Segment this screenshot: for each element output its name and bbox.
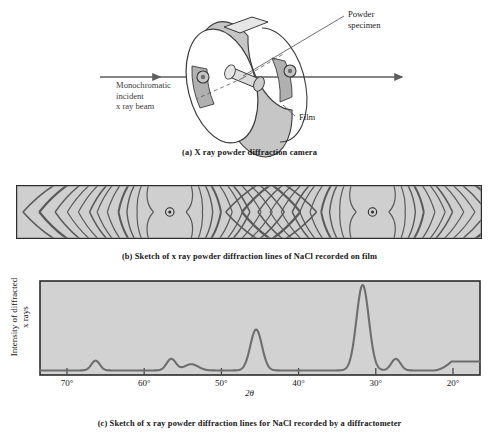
film-ring	[175, 17, 307, 157]
exit-port-hole	[288, 69, 292, 73]
x-axis-tick-label: 20°	[447, 378, 460, 388]
film-strip-svg	[16, 185, 482, 239]
panel-a-camera-diagram: Monochromatic incident x ray beam Powder…	[0, 0, 499, 168]
x-axis-tick-label: 50°	[215, 378, 228, 388]
y-axis-label-line1: Intensity of diffracted	[9, 278, 19, 356]
x-axis-tick-label: 30°	[369, 378, 382, 388]
film-beam-hole-center	[168, 211, 171, 214]
x-axis-tick-label: 70°	[61, 378, 74, 388]
y-axis-label: Intensity of diffracted x rays	[9, 261, 31, 373]
figure-root: Monochromatic incident x ray beam Powder…	[0, 0, 499, 439]
incident-beam-label-line1: Monochromatic	[116, 80, 171, 90]
powder-specimen-label-line2: specimen	[348, 20, 380, 30]
incident-beam-label-line2: incident	[116, 91, 144, 101]
panel-b-film-strip	[16, 185, 482, 239]
powder-specimen-label-line1: Powder	[348, 9, 374, 19]
incident-beam-label: Monochromatic incident x ray beam	[116, 80, 171, 112]
camera-diagram-svg	[0, 0, 499, 168]
film-label-text: Film	[299, 112, 315, 122]
film-beam-hole-center	[371, 211, 374, 214]
incident-beam-label-line3: x ray beam	[116, 101, 154, 111]
x-axis-tick-label: 60°	[138, 378, 151, 388]
plot-frame	[40, 281, 480, 375]
powder-specimen-label: Powder specimen	[348, 9, 380, 30]
caption-b: (b) Sketch of x ray powder diffraction l…	[0, 252, 499, 261]
caption-a: (a) X ray powder diffraction camera	[0, 148, 499, 157]
entrance-port-hole	[201, 75, 205, 79]
panel-c-diffractogram: Intensity of diffracted x rays 70°60°50°…	[0, 272, 499, 412]
x-axis-tick-label: 40°	[292, 378, 305, 388]
caption-c: (c) Sketch of x ray powder diffraction l…	[0, 419, 499, 428]
film-label: Film	[299, 112, 315, 123]
x-axis-label: 2θ	[0, 388, 499, 398]
y-axis-label-line2: x rays	[20, 261, 31, 373]
